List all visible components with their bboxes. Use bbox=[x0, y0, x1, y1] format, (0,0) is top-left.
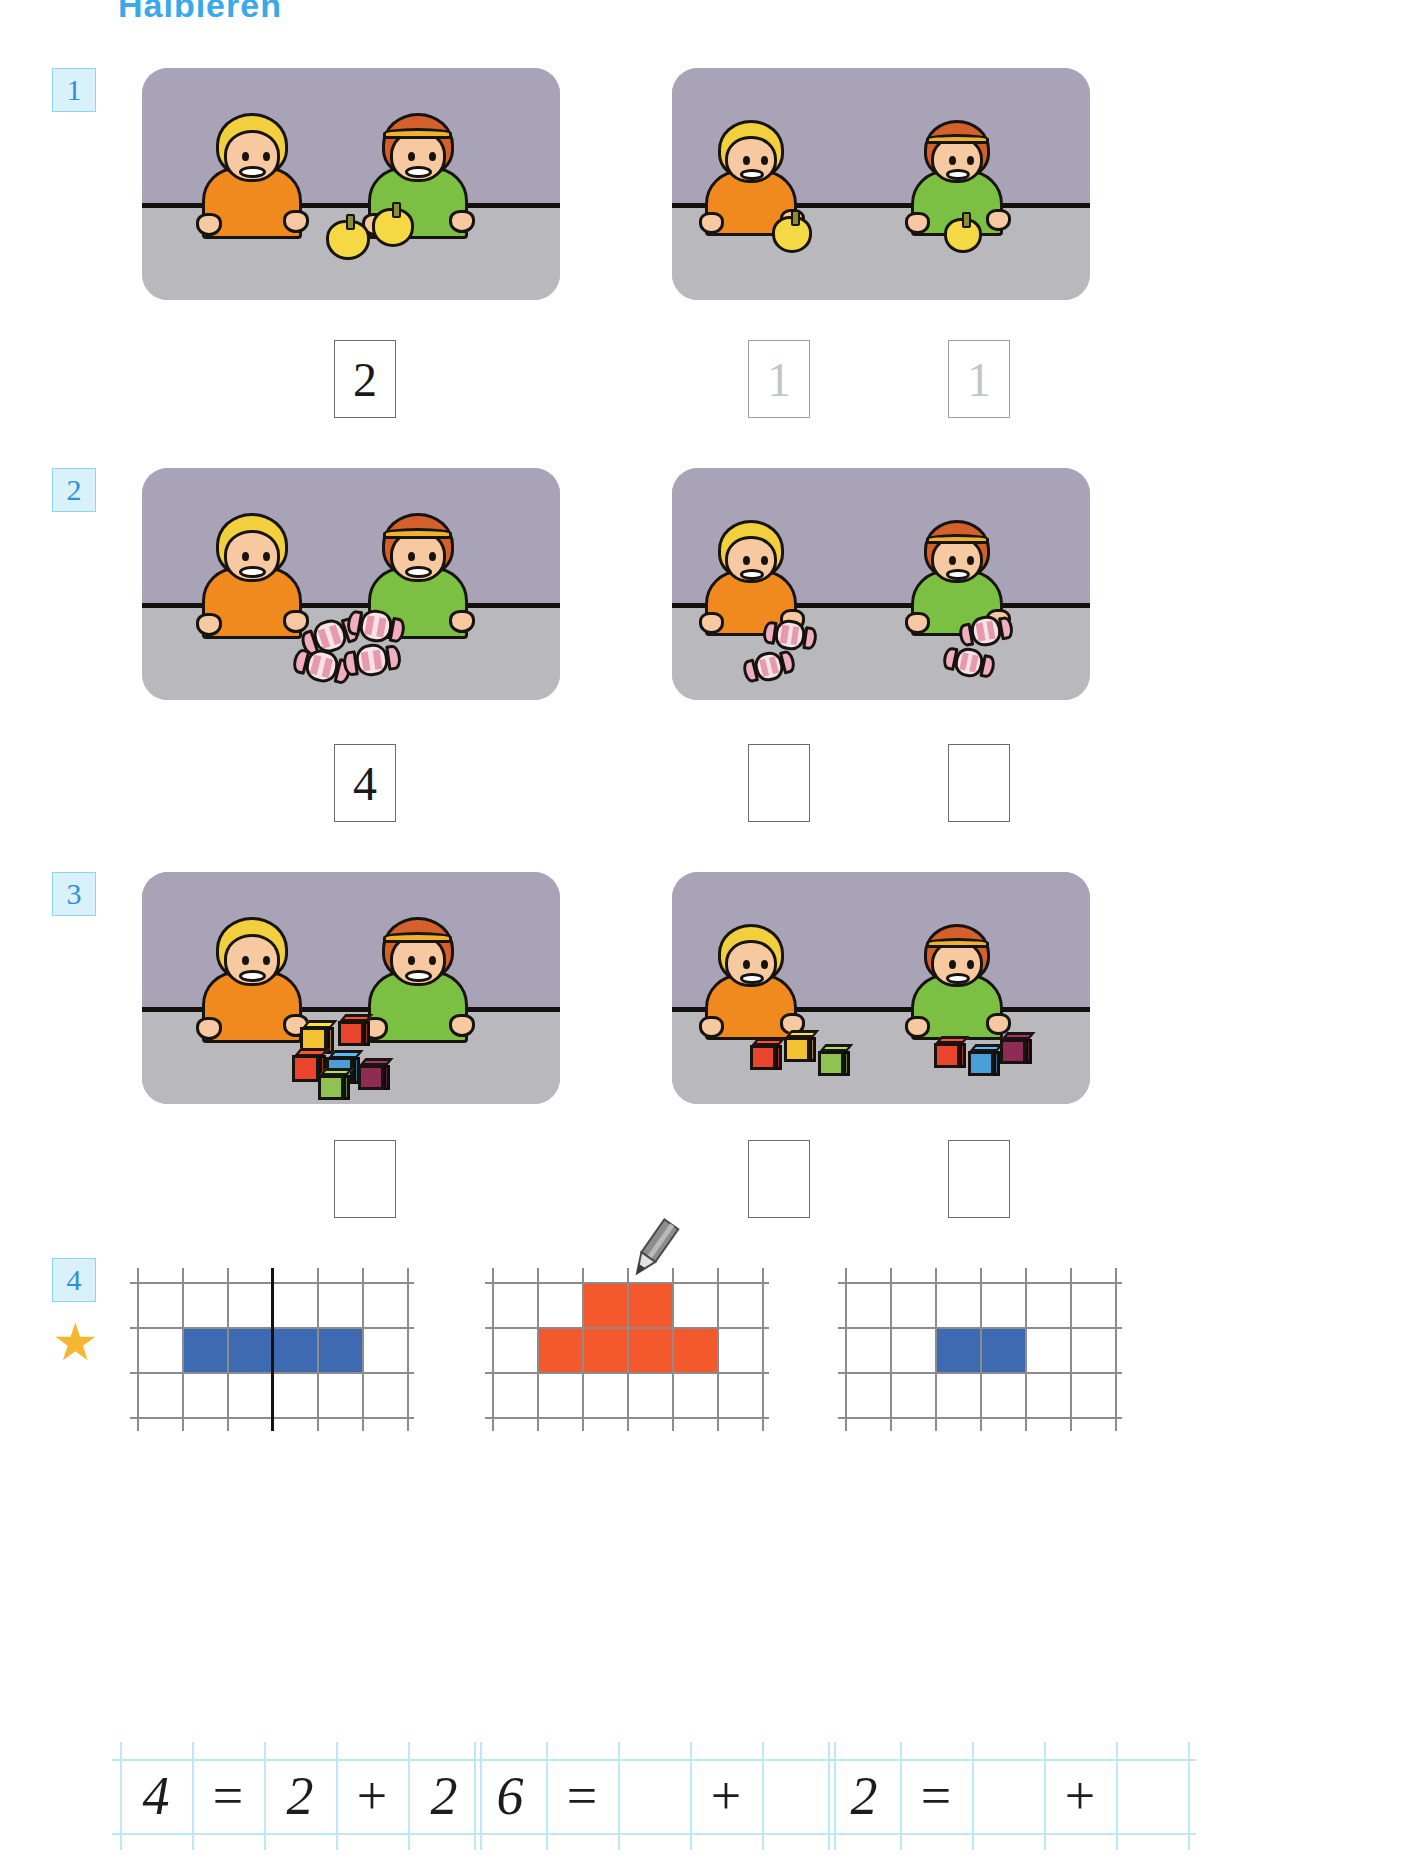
grid-line-v bbox=[582, 1268, 584, 1431]
apple-icon bbox=[772, 216, 812, 253]
grid-line-v bbox=[407, 1268, 409, 1431]
eye bbox=[408, 552, 415, 561]
hand bbox=[283, 210, 310, 233]
eq-line-h bbox=[466, 1833, 842, 1835]
grid-red-six bbox=[485, 1268, 769, 1431]
hand bbox=[699, 1016, 723, 1038]
answer-box-2-1[interactable]: 4 bbox=[334, 744, 396, 822]
equation-2: 2=+ bbox=[820, 1742, 1196, 1850]
answer-box-2-2[interactable] bbox=[748, 744, 810, 822]
grid-line-v bbox=[537, 1268, 539, 1431]
hairband bbox=[383, 128, 452, 139]
grid-line-v bbox=[362, 1268, 364, 1431]
answer-box-3-1[interactable] bbox=[334, 1140, 396, 1218]
eq-cell-number[interactable]: 4 bbox=[120, 1759, 192, 1833]
pencil-icon bbox=[617, 1216, 687, 1286]
hairband bbox=[926, 134, 989, 144]
grid-line-v bbox=[317, 1268, 319, 1431]
eye bbox=[949, 960, 956, 969]
filled-cell bbox=[980, 1327, 1025, 1372]
eq-line-h bbox=[112, 1833, 488, 1835]
answer-box-3-2[interactable] bbox=[748, 1140, 810, 1218]
child-figure bbox=[360, 907, 477, 1044]
eq-line-h bbox=[820, 1833, 1196, 1835]
hairband bbox=[383, 932, 452, 943]
filled-cell bbox=[935, 1327, 980, 1372]
cube-icon bbox=[338, 1014, 370, 1046]
eye bbox=[949, 556, 956, 565]
grid-blue-four bbox=[130, 1268, 414, 1431]
filled-cell bbox=[272, 1327, 317, 1372]
child-figure bbox=[194, 907, 311, 1044]
answer-box-1-2[interactable]: 1 bbox=[748, 340, 810, 418]
child-figure bbox=[698, 914, 806, 1040]
filled-cell bbox=[182, 1327, 227, 1372]
eye bbox=[408, 956, 415, 965]
grid-line-h bbox=[485, 1327, 769, 1329]
eye bbox=[263, 552, 270, 561]
eye bbox=[242, 552, 249, 561]
cube-icon bbox=[818, 1044, 850, 1076]
eq-cell-number[interactable]: 2 bbox=[828, 1759, 900, 1833]
eye bbox=[967, 156, 974, 165]
eq-cell-op[interactable]: + bbox=[690, 1759, 762, 1833]
eq-cell-number[interactable] bbox=[1116, 1759, 1188, 1833]
hand bbox=[449, 610, 476, 633]
eye bbox=[242, 152, 249, 161]
answer-box-1-3[interactable]: 1 bbox=[948, 340, 1010, 418]
grid-line-v bbox=[627, 1268, 629, 1431]
grid-line-v bbox=[672, 1268, 674, 1431]
eq-cell-number[interactable]: 2 bbox=[264, 1759, 336, 1833]
illustration-scene bbox=[142, 872, 560, 1104]
page-title: Halbieren bbox=[118, 0, 282, 25]
hand bbox=[905, 612, 929, 634]
halving-divider bbox=[271, 1268, 274, 1431]
child-figure bbox=[194, 503, 311, 640]
answer-box-1-1[interactable]: 2 bbox=[334, 340, 396, 418]
grid-line-v bbox=[1025, 1268, 1027, 1431]
hairband bbox=[383, 528, 452, 539]
grid-line-v bbox=[717, 1268, 719, 1431]
filled-cell bbox=[227, 1327, 272, 1372]
grid-line-v bbox=[890, 1268, 892, 1431]
eye bbox=[429, 552, 436, 561]
hand bbox=[905, 212, 929, 234]
apple-icon bbox=[944, 218, 982, 253]
filled-cell bbox=[582, 1282, 627, 1327]
eq-cell-op[interactable]: = bbox=[192, 1759, 264, 1833]
eq-cell-op[interactable]: + bbox=[1044, 1759, 1116, 1833]
eq-cell-op[interactable]: = bbox=[546, 1759, 618, 1833]
grid-line-h bbox=[485, 1372, 769, 1374]
hand bbox=[196, 613, 223, 636]
grid-line-v bbox=[227, 1268, 229, 1431]
eq-cell-number[interactable] bbox=[972, 1759, 1044, 1833]
grid-line-v bbox=[762, 1268, 764, 1431]
eye bbox=[743, 156, 750, 165]
grid-line-h bbox=[838, 1327, 1122, 1329]
grid-line-h bbox=[838, 1417, 1122, 1419]
hand bbox=[699, 612, 723, 634]
cube-icon bbox=[934, 1036, 966, 1068]
cube-icon bbox=[750, 1038, 782, 1070]
eq-cell-number[interactable]: 6 bbox=[474, 1759, 546, 1833]
eq-cell-op[interactable]: + bbox=[336, 1759, 408, 1833]
eye bbox=[761, 556, 768, 565]
hairband bbox=[926, 534, 989, 544]
grid-line-v bbox=[980, 1268, 982, 1431]
filled-cell bbox=[672, 1327, 717, 1372]
exercise-number-2: 2 bbox=[52, 468, 96, 512]
star-icon: ★ bbox=[52, 1316, 99, 1368]
hand bbox=[196, 213, 223, 236]
eye bbox=[761, 156, 768, 165]
illustration-scene bbox=[672, 872, 1090, 1104]
filled-cell bbox=[627, 1327, 672, 1372]
eq-cell-number[interactable] bbox=[618, 1759, 690, 1833]
eye bbox=[743, 556, 750, 565]
answer-box-3-3[interactable] bbox=[948, 1140, 1010, 1218]
answer-box-2-3[interactable] bbox=[948, 744, 1010, 822]
eye bbox=[408, 152, 415, 161]
eq-cell-op[interactable]: = bbox=[900, 1759, 972, 1833]
cube-icon bbox=[358, 1058, 390, 1090]
grid-line-v bbox=[1070, 1268, 1072, 1431]
hand bbox=[699, 212, 723, 234]
